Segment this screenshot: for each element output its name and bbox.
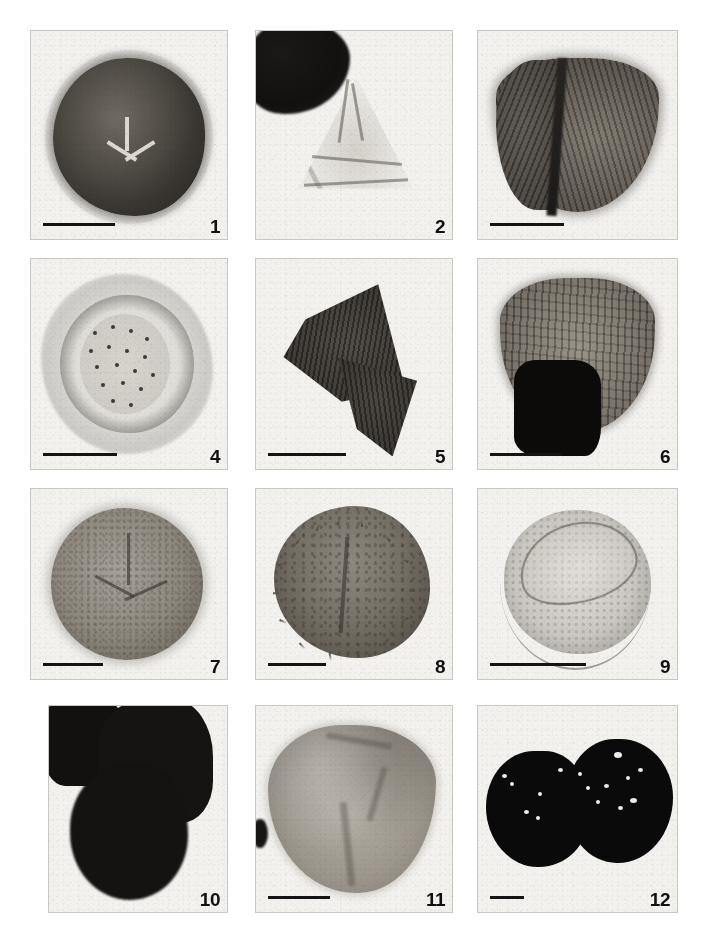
pit: [604, 784, 609, 788]
micrograph-plate: 1 2: [0, 0, 702, 942]
figure-panel-12[interactable]: 12: [477, 705, 678, 913]
figure-image-3: [478, 31, 677, 239]
pit: [638, 768, 643, 772]
figure-image-5: [256, 259, 452, 469]
outer-rim: [500, 573, 651, 670]
figure-panel-11[interactable]: 11: [255, 705, 453, 913]
pit: [536, 816, 540, 820]
figure-image-10: [49, 706, 227, 912]
figure-image-7: [31, 489, 227, 679]
spore-body: [80, 314, 170, 415]
scale-bar: [268, 896, 330, 899]
figure-image-12: [478, 706, 677, 912]
grana-dot: [95, 365, 99, 369]
pit: [596, 800, 600, 804]
spine: [273, 592, 281, 594]
grana-dot: [145, 337, 149, 341]
debris-fragment: [256, 819, 268, 848]
pit: [618, 806, 623, 810]
scale-bar: [490, 663, 586, 666]
figure-image-4: [31, 259, 227, 469]
figure-image-1: [31, 31, 227, 239]
figure-number: 8: [435, 657, 445, 676]
pit: [626, 776, 630, 780]
figure-number: 10: [200, 890, 220, 909]
figure-panel-2[interactable]: 2: [255, 30, 453, 240]
scale-bar: [43, 223, 115, 226]
grana-dot: [89, 349, 93, 353]
spore-body: [274, 506, 431, 658]
pit: [502, 774, 507, 778]
figure-image-6: [478, 259, 677, 469]
opaque-grain: [70, 764, 187, 900]
grana-dot: [121, 381, 125, 385]
scale-bar: [268, 663, 326, 666]
scale-bar: [490, 896, 524, 899]
grana-dot: [111, 325, 115, 329]
figure-panel-4[interactable]: 4: [30, 258, 228, 470]
pit: [630, 798, 637, 803]
pit: [614, 752, 622, 758]
scale-bar: [490, 453, 562, 456]
trilete-ray: [127, 533, 130, 585]
grana-dot: [139, 387, 143, 391]
figure-number: 6: [660, 447, 670, 466]
grana-dot: [125, 349, 129, 353]
trilete-ray: [125, 117, 129, 151]
figure-number: 4: [210, 447, 220, 466]
figure-panel-7[interactable]: 7: [30, 488, 228, 680]
scale-bar: [43, 453, 117, 456]
figure-number: 2: [435, 217, 445, 236]
figure-panel-8[interactable]: 8: [255, 488, 453, 680]
figure-number: 12: [650, 890, 670, 909]
mineral-fragment: [514, 360, 602, 457]
figure-panel-5[interactable]: 5: [255, 258, 453, 470]
scale-bar: [268, 453, 346, 456]
pit: [574, 756, 578, 760]
pit: [510, 782, 514, 786]
grana-dot: [129, 329, 133, 333]
figure-panel-9[interactable]: 9: [477, 488, 678, 680]
spine: [407, 590, 415, 592]
pit: [538, 792, 542, 796]
grana-dot: [151, 373, 155, 377]
figure-number: 7: [210, 657, 220, 676]
debris-fragment: [256, 31, 350, 114]
grana-dot: [93, 331, 97, 335]
figure-panel-3[interactable]: [477, 30, 678, 240]
figure-image-8: [256, 489, 452, 679]
pit: [558, 768, 563, 772]
figure-panel-1[interactable]: 1: [30, 30, 228, 240]
grana-dot: [115, 363, 119, 367]
figure-number: 1: [210, 217, 220, 236]
spine: [299, 642, 306, 649]
figure-panel-10[interactable]: 10: [48, 705, 228, 913]
figure-panel-6[interactable]: 6: [477, 258, 678, 470]
grana-dot: [133, 369, 137, 373]
figure-image-11: [256, 706, 452, 912]
figure-number: 11: [426, 890, 445, 909]
scale-bar: [490, 223, 564, 226]
pit: [578, 772, 582, 776]
scale-bar: [43, 663, 103, 666]
pit: [564, 746, 570, 751]
grana-dot: [107, 345, 111, 349]
figure-number: 5: [435, 447, 445, 466]
pit: [524, 810, 529, 814]
figure-image-9: [478, 489, 677, 679]
pit: [586, 786, 590, 790]
figure-image-2: [256, 31, 452, 239]
grana-dot: [111, 399, 115, 403]
grana-dot: [143, 355, 147, 359]
figure-number: 9: [660, 657, 670, 676]
grana-dot: [101, 383, 105, 387]
grana-dot: [129, 403, 133, 407]
